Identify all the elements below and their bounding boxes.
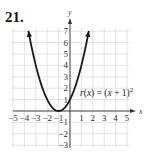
x-axis-label: x <box>138 107 143 116</box>
x-tick-label: 2 <box>91 113 96 123</box>
graph: x y −5−4−3−2−1123457654321−1−2−3 r(x) = … <box>0 0 145 158</box>
x-tick-label: 4 <box>113 113 118 123</box>
x-tick-label: −5 <box>8 113 18 123</box>
x-tick-label: −3 <box>31 113 41 123</box>
function-label: r(x) = (x + 1)2 <box>80 86 134 99</box>
x-tick-label: −4 <box>20 113 30 123</box>
x-tick-label: −2 <box>42 113 52 123</box>
y-tick-label: −3 <box>58 140 68 150</box>
y-tick-label: 3 <box>64 72 69 82</box>
y-tick-label: 7 <box>64 26 69 36</box>
y-tick-label: 4 <box>64 60 69 70</box>
y-axis-arrow-icon <box>68 18 72 24</box>
y-axis-label: y <box>67 8 72 17</box>
y-tick-label: −2 <box>58 129 68 139</box>
y-tick-label: 6 <box>64 38 69 48</box>
x-tick-label: 5 <box>125 113 130 123</box>
y-tick-label: 2 <box>64 83 69 93</box>
x-axis-arrow-icon <box>130 109 136 113</box>
x-tick-label: 1 <box>79 113 84 123</box>
y-tick-label: −1 <box>58 117 68 127</box>
x-tick-label: 3 <box>102 113 107 123</box>
y-tick-label: 5 <box>64 49 69 59</box>
